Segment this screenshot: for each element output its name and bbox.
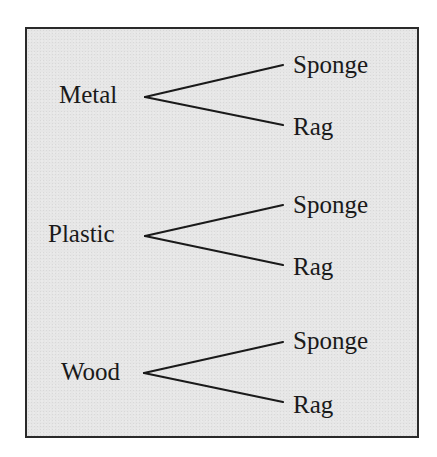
- leaf-metal-rag: Rag: [293, 113, 334, 140]
- branch-line-metal-sponge: [145, 65, 283, 97]
- leaf-wood-rag: Rag: [293, 391, 334, 418]
- tree-group-wood: Wood Sponge Rag: [61, 327, 368, 418]
- branch-line-metal-rag: [145, 97, 283, 125]
- tree-diagram: Metal Sponge Rag Plastic Sponge Rag Wood…: [0, 0, 437, 457]
- branch-line-plastic-rag: [145, 236, 283, 265]
- node-material-plastic: Plastic: [48, 220, 115, 247]
- leaf-plastic-rag: Rag: [293, 253, 334, 280]
- leaf-plastic-sponge: Sponge: [293, 191, 368, 218]
- leaf-wood-sponge: Sponge: [293, 327, 368, 354]
- tree-group-metal: Metal Sponge Rag: [59, 51, 368, 140]
- leaf-metal-sponge: Sponge: [293, 51, 368, 78]
- node-material-metal: Metal: [59, 81, 117, 108]
- node-material-wood: Wood: [61, 358, 121, 385]
- branch-line-wood-sponge: [144, 342, 283, 373]
- branch-line-plastic-sponge: [145, 205, 283, 236]
- branch-line-wood-rag: [144, 373, 283, 402]
- tree-group-plastic: Plastic Sponge Rag: [48, 191, 368, 280]
